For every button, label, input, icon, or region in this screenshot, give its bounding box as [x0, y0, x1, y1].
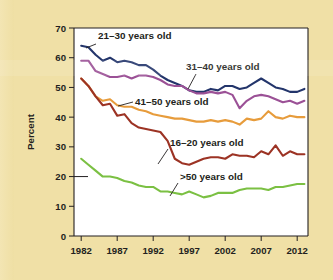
x-axis-tick-label: 2007 [251, 245, 272, 256]
x-axis-ticks [81, 236, 297, 241]
x-axis-tick-label: 1992 [143, 245, 164, 256]
series-annotation-50-years-old: >50 years old [180, 171, 243, 182]
x-axis-tick-label: 2002 [215, 245, 236, 256]
series-annotation-16-20-years-old: 16–20 years old [170, 137, 244, 148]
y-axis-tick-label: 0 [61, 231, 66, 242]
line-chart: 010203040506070 198219871992199720022007… [12, 8, 321, 272]
y-axis-tick-label: 40 [55, 112, 66, 123]
y-axis-tick-label: 60 [55, 52, 66, 63]
x-axis-tick-labels: 1982198719921997200220072012 [71, 245, 308, 256]
series-annotation-21-30-years-old: 21–30 years old [98, 30, 172, 41]
series-annotation-31-40-years-old: 31–40 years old [186, 61, 260, 72]
chart-plot-wrapper: 010203040506070 198219871992199720022007… [12, 8, 321, 272]
y-axis-tick-labels: 010203040506070 [55, 23, 66, 242]
y-axis-tick-label: 70 [55, 23, 66, 34]
y-axis-title: Percent [25, 113, 36, 150]
x-axis-tick-label: 2012 [287, 245, 308, 256]
y-axis-tick-label: 20 [55, 171, 66, 182]
x-axis-tick-label: 1997 [179, 245, 200, 256]
y-axis-tick-label: 10 [55, 201, 66, 212]
series-annotation-41-50-years-old: 41–50 years old [135, 96, 209, 107]
chart-figure: 010203040506070 198219871992199720022007… [0, 0, 333, 280]
x-axis-tick-label: 1982 [71, 245, 92, 256]
y-axis-tick-label: 30 [55, 141, 66, 152]
x-axis-tick-label: 1987 [107, 245, 128, 256]
y-axis-tick-label: 50 [55, 82, 66, 93]
